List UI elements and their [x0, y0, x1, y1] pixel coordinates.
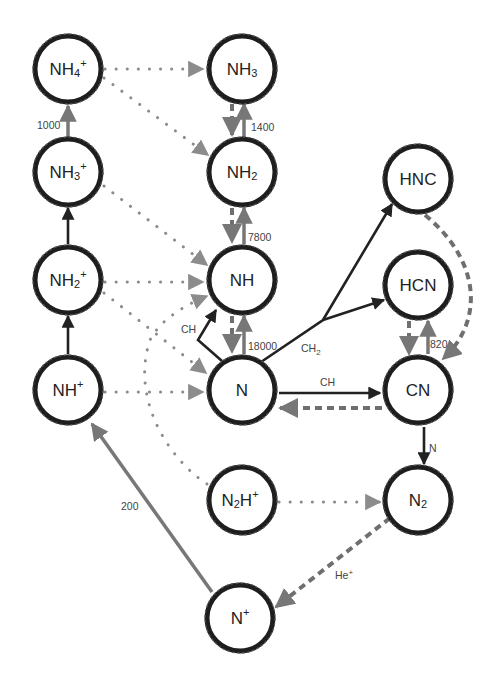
reactant-label-n: N: [429, 442, 437, 454]
svg-text:N: N: [236, 381, 248, 400]
rate-label-200: 200: [121, 500, 139, 512]
node-n[interactable]: N: [207, 355, 277, 425]
rate-label-18000: 18000: [248, 340, 277, 352]
edge-nh3p-to-nh: [104, 186, 207, 265]
edge-n-to-nh-ch: [198, 310, 222, 361]
reactant-label-ch2: CH2: [301, 342, 321, 357]
rate-label-1000: 1000: [37, 119, 61, 131]
edge-n-to-hnc: [261, 204, 392, 362]
node-cn[interactable]: CN: [383, 355, 453, 425]
node-n2[interactable]: N2: [383, 465, 453, 535]
edge-n2hp-to-nh: [145, 296, 207, 484]
node-nh4-plus[interactable]: NH4+: [33, 34, 103, 104]
reactant-label-he-plus: He+: [335, 568, 353, 581]
node-nh3[interactable]: NH3: [207, 34, 277, 104]
rate-label-820: 820: [430, 338, 448, 350]
reactant-label-ch-nh: CH: [181, 323, 196, 335]
svg-text:HCN: HCN: [400, 276, 437, 295]
node-n2h-plus[interactable]: N2H+: [207, 465, 277, 535]
edge-np-to-nhp: [92, 424, 212, 592]
node-nh-plus[interactable]: NH+: [33, 355, 103, 425]
node-nh2[interactable]: NH2: [207, 137, 277, 207]
node-hcn[interactable]: HCN: [383, 250, 453, 320]
node-nh2-plus[interactable]: NH2+: [33, 245, 103, 315]
svg-text:HNC: HNC: [400, 170, 437, 189]
svg-text:NH: NH: [230, 271, 255, 290]
svg-text:CN: CN: [406, 381, 431, 400]
rate-label-7800: 7800: [248, 231, 272, 243]
edge-n2-to-np: [276, 518, 390, 607]
reaction-network-diagram: 1000 1400 7800 18000 CH CH2 CH 820 N 200…: [0, 0, 499, 684]
edge-nh4p-to-nh2: [104, 78, 208, 155]
node-n-plus[interactable]: N+: [205, 583, 275, 653]
node-nh3-plus[interactable]: NH3+: [33, 137, 103, 207]
node-hnc[interactable]: HNC: [383, 144, 453, 214]
rate-label-1400: 1400: [251, 121, 275, 133]
node-nh[interactable]: NH: [207, 245, 277, 315]
reactant-label-ch-cn: CH: [320, 376, 335, 388]
